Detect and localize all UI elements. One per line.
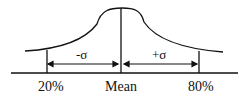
right-percent-label: 80% — [188, 80, 214, 94]
mean-label: Mean — [105, 80, 137, 94]
left-sigma-arrow — [48, 62, 118, 67]
bell-curve-diagram: -σ +σ 20% Mean 80% — [0, 0, 246, 100]
minus-sigma-label: -σ — [76, 48, 87, 61]
plus-sigma-label: +σ — [152, 48, 166, 61]
left-percent-label: 20% — [38, 80, 64, 94]
right-sigma-arrow — [124, 62, 197, 67]
bell-curve — [25, 8, 223, 52]
